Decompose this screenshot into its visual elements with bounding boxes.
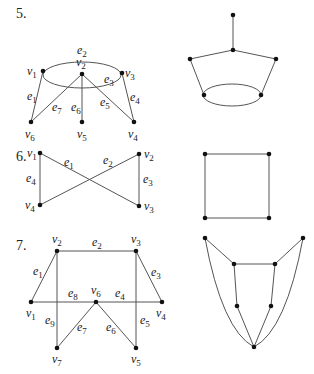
vertex-v1 (41, 69, 46, 74)
problem-number: 7. (16, 238, 27, 253)
vertex (301, 236, 306, 241)
vertex-label-v5: v5 (77, 127, 87, 143)
vertex (274, 57, 279, 62)
edge (190, 50, 233, 59)
vertex-v1 (29, 300, 34, 305)
vertex (232, 262, 237, 267)
vertex-label-v1: v1 (27, 146, 37, 162)
edge-label-e2: e2 (92, 235, 102, 251)
edge-label-e4: e4 (130, 90, 140, 106)
vertex-label-v4: v4 (156, 306, 166, 322)
edge-e2 (40, 154, 139, 205)
vertex-v6 (94, 300, 99, 305)
vertex (203, 152, 208, 157)
vertex-label-v6: v6 (91, 283, 101, 299)
vertex-label-v3: v3 (131, 232, 141, 248)
vertex-label-v3: v3 (125, 66, 135, 82)
vertex-label-v2: v2 (52, 232, 62, 248)
vertex (235, 304, 240, 309)
vertex-v5 (80, 120, 85, 125)
edge-label-e5: e5 (100, 95, 110, 111)
edge-label-e7: e7 (77, 320, 87, 336)
vertex-label-v1: v1 (27, 64, 37, 80)
edge-label-e4: e4 (115, 286, 125, 302)
vertex-v4 (160, 300, 165, 305)
vertex-v3 (120, 71, 125, 76)
vertex-label-v4: v4 (128, 127, 138, 143)
curved-edge (205, 238, 254, 347)
vertex-v5 (134, 346, 139, 351)
edge-label-e5: e5 (140, 313, 150, 329)
vertex-v6 (29, 120, 34, 125)
labels-layer: 5.e1e2e3e4e5e6e7v1v2v3v4v5v66.e1e2e3e4v1… (16, 6, 166, 368)
vertex-label-v7: v7 (52, 352, 62, 368)
vertex-label-v5: v5 (131, 352, 141, 368)
problem-number: 5. (16, 6, 27, 21)
vertex (202, 93, 207, 98)
graph-diagram-canvas: 5.e1e2e3e4e5e6e7v1v2v3v4v5v66.e1e2e3e4v1… (0, 0, 314, 374)
vertex-v1 (38, 151, 43, 156)
edge-label-e7: e7 (52, 100, 62, 116)
vertex (203, 216, 208, 221)
edge-label-e3: e3 (151, 265, 161, 281)
problem-number: 6. (16, 149, 27, 164)
edge-label-e6: e6 (71, 100, 81, 116)
vertex (188, 57, 193, 62)
vertex-v2 (80, 72, 85, 77)
vertex (259, 93, 264, 98)
vertex (269, 304, 274, 309)
vertex-v7 (55, 346, 60, 351)
edge (233, 50, 276, 59)
curved-edge (254, 238, 303, 347)
edge (234, 264, 237, 306)
edge-label-e9: e9 (45, 313, 55, 329)
vertex-v2 (137, 152, 142, 157)
vertex-label-v6: v6 (25, 127, 35, 143)
edge-label-e1: e1 (64, 155, 74, 171)
edge-label-e3: e3 (143, 172, 153, 188)
edge (190, 59, 204, 95)
vertex (231, 13, 236, 18)
vertex (231, 48, 236, 53)
edge (261, 59, 276, 95)
edge-label-e1: e1 (27, 89, 37, 105)
edge-label-e2: e2 (103, 153, 113, 169)
vertex-label-v4: v4 (25, 198, 35, 214)
edge (271, 264, 275, 306)
vertex (203, 236, 208, 241)
vertex (252, 345, 257, 350)
edge-label-e6: e6 (106, 320, 116, 336)
edge-label-e8: e8 (68, 286, 78, 302)
edge-e6 (96, 302, 136, 348)
edge-label-e4: e4 (26, 171, 36, 187)
vertex (273, 262, 278, 267)
vertex-v2 (55, 249, 60, 254)
vertex (267, 216, 272, 221)
vertex-v4 (38, 203, 43, 208)
edge-label-e1: e1 (33, 264, 43, 280)
loop-ellipse (203, 84, 261, 106)
vertex-label-v2: v2 (144, 147, 154, 163)
vertex-label-v3: v3 (144, 199, 154, 215)
vertex-v3 (137, 204, 142, 209)
edge-label-e3: e3 (104, 72, 114, 88)
vertex-v3 (134, 249, 139, 254)
vertex-label-v1: v1 (26, 306, 36, 322)
vertex (267, 152, 272, 157)
vertex-v4 (132, 120, 137, 125)
